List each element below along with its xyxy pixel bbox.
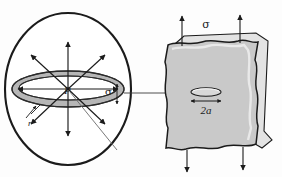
sphere-radius-label: r <box>28 118 32 128</box>
sphere-center-label: P <box>63 84 71 96</box>
sphere-sigma-label: σ <box>105 86 112 97</box>
diagram-canvas: P σ r <box>0 0 282 177</box>
block-group: σ 2a <box>165 15 272 172</box>
figure-root: P σ r <box>0 0 282 177</box>
sphere-group: P σ r <box>5 13 131 165</box>
load-arrows-bottom <box>187 147 243 172</box>
crack-width-label: 2a <box>201 104 213 116</box>
block-sigma-label: σ <box>202 18 210 31</box>
